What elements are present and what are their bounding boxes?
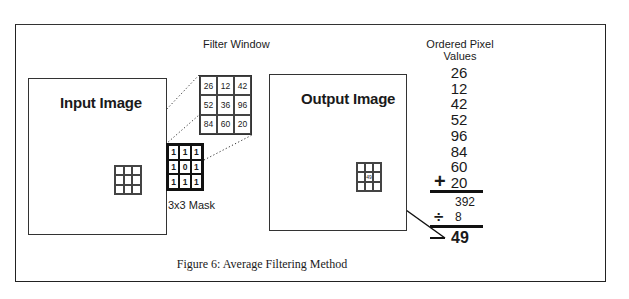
filter-cell: 20 <box>234 115 251 134</box>
input-image-window-grid <box>114 165 142 195</box>
filter-cell: 84 <box>200 115 217 134</box>
mask-cell: 1 <box>168 145 179 160</box>
filter-window-grid: 26 12 42 52 36 96 84 60 20 <box>199 75 252 135</box>
result-value: 49 <box>451 229 469 247</box>
mask-cell: 1 <box>179 145 190 160</box>
filter-cell: 36 <box>217 95 234 114</box>
filter-cell: 26 <box>200 76 217 95</box>
ordered-value: 42 <box>425 96 485 112</box>
mask-cell: 1 <box>179 174 190 189</box>
mask-cell: 1 <box>191 145 202 160</box>
ordered-value: 96 <box>425 128 485 144</box>
output-image-label: Output Image <box>301 90 395 107</box>
result-divider <box>430 225 483 228</box>
divisor-value: 8 <box>455 210 462 224</box>
ordered-values-title-line1: Ordered Pixel <box>425 38 495 50</box>
divide-symbol: ÷ <box>434 209 443 225</box>
filter-cell: 52 <box>200 95 217 114</box>
mask-cell: 1 <box>168 174 179 189</box>
input-image-label: Input Image <box>60 94 142 111</box>
output-image-window-grid: 49 <box>356 162 382 192</box>
ordered-value: 52 <box>425 112 485 128</box>
mask-label: 3x3 Mask <box>168 199 215 211</box>
mask-cell: 0 <box>179 160 190 175</box>
mask-cell: 1 <box>191 160 202 175</box>
filter-cell: 60 <box>217 115 234 134</box>
filter-cell: 42 <box>234 76 251 95</box>
sum-divider <box>430 190 483 193</box>
ordered-value: 12 <box>425 81 485 97</box>
ordered-value: 26 <box>425 65 485 81</box>
figure-caption: Figure 6: Average Filtering Method <box>0 257 524 272</box>
mask-grid: 1 1 1 1 0 1 1 1 1 <box>166 143 204 191</box>
ordered-values-title-line2: Values <box>425 50 495 62</box>
sum-value: 392 <box>440 195 490 209</box>
mask-cell: 1 <box>191 174 202 189</box>
filter-cell: 12 <box>217 76 234 95</box>
ordered-value: 84 <box>425 144 485 160</box>
filter-window-label: Filter Window <box>203 38 270 50</box>
output-center-value: 49 <box>365 172 373 181</box>
plus-symbol: + <box>434 173 446 189</box>
filter-cell: 96 <box>234 95 251 114</box>
ordered-values-title: Ordered Pixel Values <box>425 38 495 62</box>
mask-cell: 1 <box>168 160 179 175</box>
